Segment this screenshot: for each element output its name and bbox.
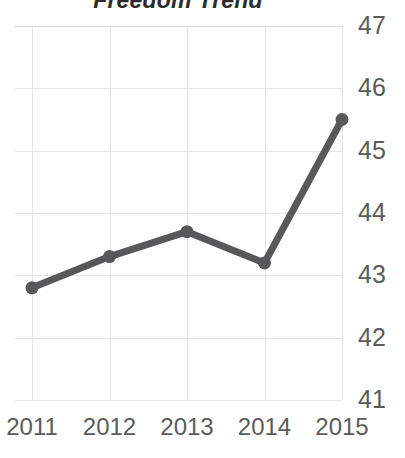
data-point-marker xyxy=(258,256,271,269)
data-point-marker xyxy=(336,113,349,126)
x-axis-tick-label: 2013 xyxy=(142,414,232,440)
y-axis-tick-label: 44 xyxy=(358,200,400,225)
gridline-vertical xyxy=(342,26,343,400)
series-line-freedom-trend xyxy=(15,26,342,400)
line-chart: Freedom Trend 41424344454647 20112012201… xyxy=(0,0,405,458)
y-axis-tick-label: 41 xyxy=(358,387,400,412)
data-point-marker xyxy=(103,250,116,263)
y-axis-tick-label: 46 xyxy=(358,75,400,100)
data-point-marker xyxy=(181,225,194,238)
chart-title: Freedom Trend xyxy=(0,0,356,13)
y-axis-tick-label: 42 xyxy=(358,325,400,350)
y-axis-tick-label: 43 xyxy=(358,262,400,287)
x-axis-tick-label: 2014 xyxy=(220,414,310,440)
data-point-marker xyxy=(26,281,39,294)
gridline-horizontal xyxy=(15,400,342,401)
x-axis-tick-label: 2015 xyxy=(297,414,387,440)
y-axis-tick-label: 45 xyxy=(358,138,400,163)
x-axis-tick-label: 2012 xyxy=(65,414,155,440)
plot-area xyxy=(15,26,342,400)
y-axis-tick-label: 47 xyxy=(358,13,400,38)
series-polyline xyxy=(32,120,342,288)
